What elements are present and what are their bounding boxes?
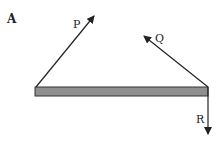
beam (35, 87, 208, 96)
force-p-arrow (36, 16, 94, 87)
force-q-arrow (144, 36, 208, 87)
panel-label: A (7, 13, 16, 25)
diagram-canvas (0, 0, 218, 141)
force-diagram: A P Q R (0, 0, 218, 141)
force-q-label: Q (155, 33, 164, 44)
force-p-label: P (73, 19, 80, 30)
force-r-label: R (196, 114, 204, 125)
